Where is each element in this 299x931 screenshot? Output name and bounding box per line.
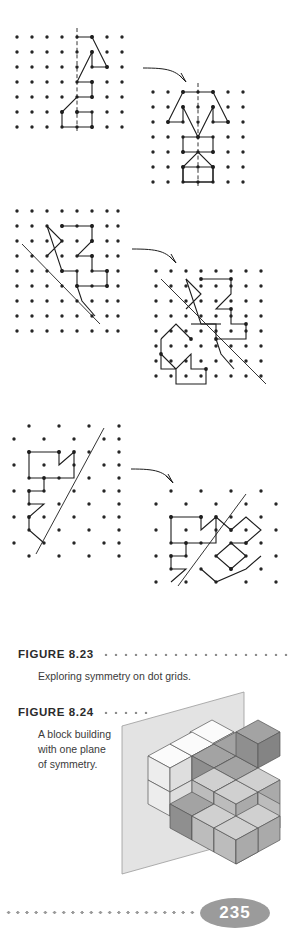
figure-8-23-label: FIGURE 8.23: [18, 648, 94, 660]
transform-arrow-2-head: [169, 254, 176, 263]
block-building-svg: [112, 690, 299, 886]
square-diagonal-mirror-svg: [0, 196, 299, 386]
caption-line-2: with one plane: [38, 743, 106, 755]
completed-figure-lower-2: [161, 339, 206, 384]
half-figure-left: [62, 37, 107, 127]
page-number: 235: [219, 903, 250, 923]
completed-figure-left-3: [171, 517, 216, 582]
square-vertical-mirror-svg: [0, 10, 299, 195]
dot-grid-left: [15, 35, 123, 128]
page-footer: 235: [0, 898, 299, 931]
half-figure-left-2b: [47, 226, 62, 256]
block-building-illustration: [112, 690, 299, 886]
triangular-grid-mirror-svg: [0, 386, 299, 586]
figure-panel-square-vertical: [0, 10, 299, 195]
half-figure-left-3b: [29, 452, 44, 478]
vertex-dots-left-3: [27, 450, 76, 519]
figure-panel-triangular-oblique: [0, 386, 299, 586]
caption-line-1: A block building: [38, 728, 111, 740]
page-number-badge: 235: [200, 898, 270, 928]
figure-8-23-heading: FIGURE 8.23: [18, 648, 293, 660]
figure-8-24-label: FIGURE 8.24: [18, 706, 94, 718]
figure-caption-8-23: FIGURE 8.23 Exploring symmetry on dot gr…: [18, 648, 293, 684]
half-figure-left-3: [29, 452, 74, 543]
figure-8-23-caption-text: Exploring symmetry on dot grids.: [38, 669, 293, 684]
completed-figure-left-3b: [171, 517, 186, 543]
figure-panel-square-diagonal: [0, 196, 299, 386]
book-page: FIGURE 8.23 Exploring symmetry on dot gr…: [0, 0, 299, 931]
mirror-line-oblique-left: [36, 428, 104, 554]
footer-dot-rule: [4, 910, 196, 915]
mirror-line-oblique-right: [178, 494, 246, 586]
completed-figure-upper-2b: [186, 279, 201, 309]
caption-line-3: of symmetry.: [38, 758, 97, 770]
transform-arrow-1-head: [179, 73, 186, 82]
caption-dot-rule: [101, 652, 293, 656]
